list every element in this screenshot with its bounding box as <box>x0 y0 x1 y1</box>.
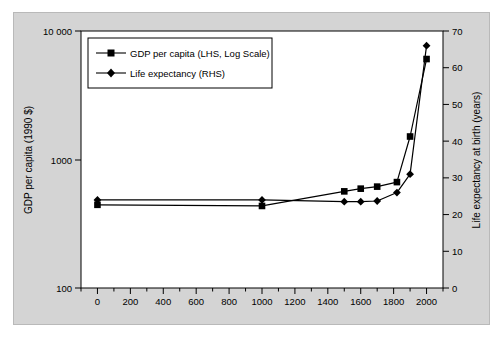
right-tick-label: 0 <box>452 283 457 294</box>
legend-label-gdp: GDP per capita (LHS, Log Scale) <box>130 48 270 59</box>
bottom-tick-label: 0 <box>95 296 100 307</box>
right-tick-label: 70 <box>452 26 463 37</box>
right-axis-ticklabels: 70 60 50 40 30 20 10 0 <box>452 26 463 294</box>
right-tick-label: 50 <box>452 99 463 110</box>
legend-marker-square <box>108 50 115 57</box>
right-axis-title: Life expectancy at birth (years) <box>471 92 482 229</box>
right-axis-ticks <box>443 31 449 288</box>
left-axis-ticks <box>75 31 81 288</box>
legend-box <box>88 38 272 88</box>
right-tick-label: 30 <box>452 172 463 183</box>
bottom-tick-label: 1000 <box>251 296 272 307</box>
right-tick-label: 10 <box>452 246 463 257</box>
bottom-tick-label: 200 <box>122 296 138 307</box>
bottom-tick-label: 1600 <box>350 296 371 307</box>
right-tick-label: 60 <box>452 62 463 73</box>
bottom-tick-label: 400 <box>155 296 171 307</box>
marker-square <box>407 133 414 140</box>
marker-square <box>341 188 348 195</box>
marker-square <box>374 183 381 190</box>
bottom-tick-label: 1200 <box>284 296 305 307</box>
chart-figure: 10 000 1000 100 GDP per capita (1990 $) … <box>0 0 504 339</box>
bottom-tick-label: 800 <box>221 296 237 307</box>
right-tick-label: 20 <box>452 209 463 220</box>
bottom-tick-label: 2000 <box>416 296 437 307</box>
left-tick-label: 100 <box>56 283 72 294</box>
bottom-axis-ticklabels: 0 200 400 600 800 1000 1200 1400 1600 18… <box>95 296 437 307</box>
left-axis-title: GDP per capita (1990 $) <box>23 106 34 214</box>
chart-canvas: 10 000 1000 100 GDP per capita (1990 $) … <box>0 0 504 339</box>
marker-square <box>394 179 401 186</box>
marker-square <box>357 185 364 192</box>
left-tick-label: 10 000 <box>43 26 72 37</box>
bottom-tick-label: 1400 <box>317 296 338 307</box>
left-tick-label: 1000 <box>51 155 72 166</box>
legend: GDP per capita (LHS, Log Scale) Life exp… <box>88 38 272 88</box>
left-axis-ticklabels: 10 000 1000 100 <box>43 26 72 294</box>
bottom-tick-label: 600 <box>188 296 204 307</box>
right-tick-label: 40 <box>452 136 463 147</box>
legend-label-life: Life expectancy (RHS) <box>130 68 225 79</box>
bottom-tick-label: 1800 <box>383 296 404 307</box>
